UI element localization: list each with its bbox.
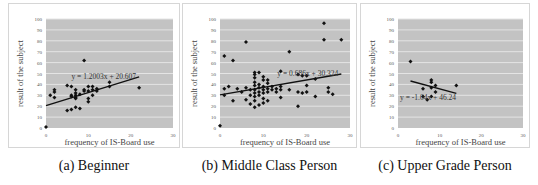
chart-panel-middle-class: 01020304050607080901000102030frequency o…	[182, 3, 357, 148]
y-tick-label: 30	[211, 93, 217, 98]
x-tick-label: 30	[521, 133, 527, 138]
y-tick-label: 80	[37, 39, 43, 44]
y-tick-label: 100	[35, 17, 43, 22]
x-tick-label: 30	[348, 133, 354, 138]
y-axis-label: result of the subject	[189, 39, 199, 106]
y-tick-label: 60	[37, 61, 43, 66]
scatter-chart-beginner: 01020304050607080901000102030frequency o…	[9, 4, 181, 149]
x-tick-label: 0	[45, 133, 48, 138]
trendline-equation: y = -1.04x + 46.24	[400, 93, 456, 102]
y-tick-label: 0	[214, 126, 217, 131]
y-tick-label: 40	[389, 82, 395, 87]
y-tick-label: 90	[211, 28, 217, 33]
y-tick-label: 80	[389, 39, 395, 44]
trendline-equation: y = 0.686x + 30.324	[277, 69, 338, 78]
y-tick-label: 70	[389, 50, 395, 55]
y-axis-label: result of the subject	[15, 39, 25, 106]
caption-middle-class: (b) Middle Class Person	[182, 158, 357, 174]
x-axis-label: frequency of IS-Board use	[416, 137, 506, 147]
trendline-equation: y = 1.2003x + 20.607	[71, 72, 136, 81]
y-tick-label: 100	[387, 17, 395, 22]
y-tick-label: 0	[392, 126, 395, 131]
y-tick-label: 20	[37, 104, 43, 109]
y-axis-label: result of the subject	[367, 39, 377, 106]
y-tick-label: 10	[389, 115, 395, 120]
y-tick-label: 100	[209, 17, 217, 22]
y-tick-label: 40	[37, 82, 43, 87]
y-tick-label: 30	[389, 93, 395, 98]
y-tick-label: 50	[389, 72, 395, 77]
y-tick-label: 60	[389, 61, 395, 66]
x-tick-label: 0	[219, 133, 222, 138]
y-tick-label: 30	[37, 93, 43, 98]
y-tick-label: 40	[211, 82, 217, 87]
y-tick-label: 70	[37, 50, 43, 55]
y-tick-label: 80	[211, 39, 217, 44]
caption-beginner: (a) Beginner	[8, 158, 180, 174]
y-tick-label: 60	[211, 61, 217, 66]
y-tick-label: 50	[211, 72, 217, 77]
scatter-chart-upper-grade: 01020304050607080901000102030frequency o…	[361, 4, 531, 149]
y-tick-label: 50	[37, 72, 43, 77]
x-axis-label: frequency of IS-Board use	[65, 137, 155, 147]
y-tick-label: 20	[389, 104, 395, 109]
y-tick-label: 90	[389, 28, 395, 33]
caption-upper-grade: (c) Upper Grade Person	[360, 158, 530, 174]
chart-panel-upper-grade: 01020304050607080901000102030frequency o…	[360, 3, 530, 148]
x-tick-label: 30	[171, 133, 177, 138]
y-tick-label: 20	[211, 104, 217, 109]
scatter-chart-middle-class: 01020304050607080901000102030frequency o…	[183, 4, 358, 149]
y-tick-label: 0	[40, 126, 43, 131]
y-tick-label: 10	[37, 115, 43, 120]
x-axis-label: frequency of IS-Board use	[240, 137, 330, 147]
y-tick-label: 90	[37, 28, 43, 33]
x-tick-label: 0	[397, 133, 400, 138]
y-tick-label: 70	[211, 50, 217, 55]
y-tick-label: 10	[211, 115, 217, 120]
chart-panel-beginner: 01020304050607080901000102030frequency o…	[8, 3, 180, 148]
